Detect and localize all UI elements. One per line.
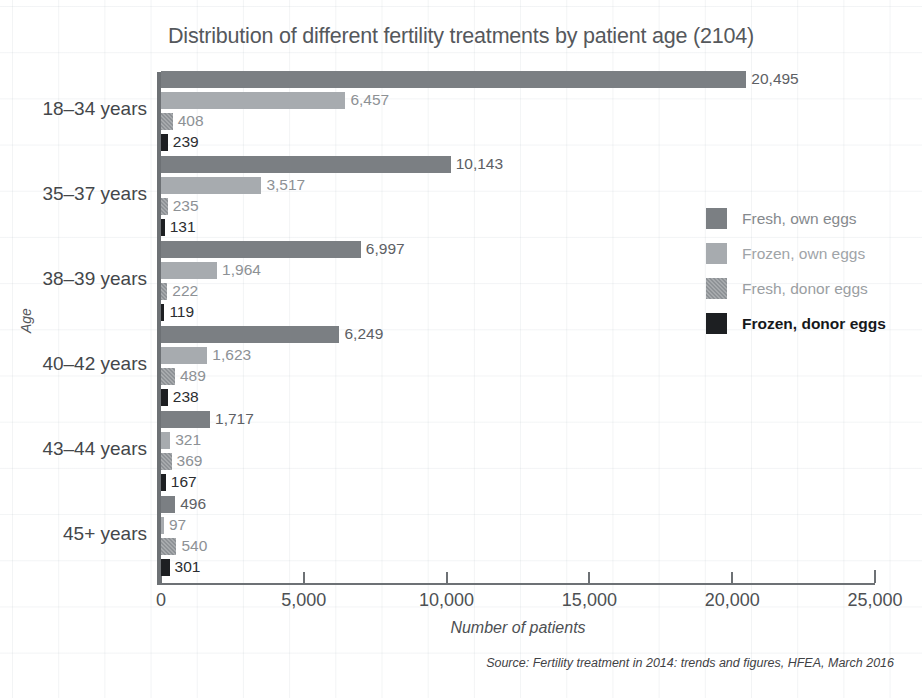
bar-value-label: 6,997 [361, 240, 405, 258]
bar[interactable] [161, 347, 207, 364]
bar[interactable] [161, 538, 176, 555]
bar-value-label: 20,495 [746, 70, 798, 88]
legend-label: Frozen, donor eggs [742, 315, 886, 333]
bar[interactable] [161, 432, 170, 449]
bar-value-label: 489 [175, 367, 206, 385]
legend-item[interactable]: Frozen, own eggs [706, 243, 886, 264]
bar-row: 97 [161, 517, 875, 534]
legend-label: Fresh, own eggs [742, 210, 857, 228]
legend-swatch-icon [706, 208, 727, 229]
source-prefix: Source: [486, 656, 529, 670]
legend-label: Frozen, own eggs [742, 245, 865, 263]
bar[interactable] [161, 134, 168, 151]
bar-row: 239 [161, 134, 875, 151]
legend-swatch-icon [706, 278, 727, 299]
bar-row: 238 [161, 389, 875, 406]
bar-row: 369 [161, 453, 875, 470]
y-axis-category-label: 18–34 years [0, 98, 147, 120]
legend-item[interactable]: Fresh, own eggs [706, 208, 886, 229]
legend-item[interactable]: Fresh, donor eggs [706, 278, 886, 299]
bar-value-label: 6,457 [345, 91, 389, 109]
y-axis-title: Age [18, 308, 34, 333]
bar-group: 20,4956,45740823918–34 years [161, 71, 875, 155]
source-text: Fertility treatment in 2014: trends and … [533, 656, 785, 670]
chart-legend: Fresh, own eggsFrozen, own eggsFresh, do… [706, 208, 886, 348]
bar-value-label: 301 [170, 558, 201, 576]
bar[interactable] [161, 496, 175, 513]
bar-value-label: 97 [164, 516, 186, 534]
bar-value-label: 131 [165, 218, 196, 236]
bar-group: 4969754030145+ years [161, 496, 875, 580]
bar-value-label: 321 [170, 431, 201, 449]
legend-swatch-icon [706, 313, 727, 334]
bar-value-label: 540 [176, 537, 207, 555]
bar-row: 10,143 [161, 156, 875, 173]
bar-value-label: 408 [173, 112, 204, 130]
bar-value-label: 1,964 [217, 261, 261, 279]
bar[interactable] [161, 198, 168, 215]
bar-value-label: 3,517 [261, 176, 305, 194]
bar-row: 20,495 [161, 71, 875, 88]
fertility-treatments-bar-chart: Distribution of different fertility trea… [0, 0, 922, 698]
y-axis-category-label: 35–37 years [0, 183, 147, 205]
bar-value-label: 496 [175, 495, 206, 513]
bar[interactable] [161, 92, 345, 109]
source-note: Source: Fertility treatment in 2014: tre… [486, 656, 894, 670]
bar-value-label: 10,143 [451, 155, 503, 173]
x-axis-tick-label: 20,000 [705, 590, 760, 611]
bar-value-label: 6,249 [339, 325, 383, 343]
bar-row: 1,717 [161, 411, 875, 428]
bar[interactable] [161, 389, 168, 406]
bar-value-label: 119 [164, 303, 194, 321]
bar[interactable] [161, 156, 451, 173]
bar[interactable] [161, 559, 170, 576]
bar[interactable] [161, 411, 210, 428]
x-axis-title: Number of patients [161, 619, 875, 637]
bar-row: 6,457 [161, 92, 875, 109]
bar[interactable] [161, 262, 217, 279]
y-axis-category-label: 43–44 years [0, 438, 147, 460]
bar-value-label: 1,717 [210, 410, 254, 428]
bar-value-label: 235 [168, 197, 199, 215]
y-axis-category-label: 40–42 years [0, 353, 147, 375]
bar[interactable] [161, 177, 261, 194]
chart-title: Distribution of different fertility trea… [0, 24, 922, 49]
bar-value-label: 238 [168, 388, 199, 406]
legend-item[interactable]: Frozen, donor eggs [706, 313, 886, 334]
y-axis-category-label: 38–39 years [0, 268, 147, 290]
bar-value-label: 369 [172, 452, 203, 470]
bar-row: 496 [161, 496, 875, 513]
bar-row: 1,623 [161, 347, 875, 364]
x-axis-spine [157, 583, 875, 585]
bar-value-label: 1,623 [207, 346, 251, 364]
bar-row: 540 [161, 538, 875, 555]
bar[interactable] [161, 453, 172, 470]
bar-group: 1,71732136916743–44 years [161, 411, 875, 495]
bar-row: 489 [161, 368, 875, 385]
bar-value-label: 167 [166, 473, 197, 491]
x-axis-tick-label: 5,000 [281, 590, 326, 611]
legend-label: Fresh, donor eggs [742, 280, 868, 298]
x-axis-tick-label: 10,000 [419, 590, 474, 611]
bar[interactable] [161, 368, 175, 385]
x-axis-tick-label: 25,000 [847, 590, 902, 611]
legend-swatch-icon [706, 243, 727, 264]
source-publisher: HFEA, March 2016 [788, 656, 894, 670]
y-axis-category-label: 45+ years [0, 523, 147, 545]
x-axis-tick-label: 15,000 [562, 590, 617, 611]
bar-row: 408 [161, 113, 875, 130]
bar[interactable] [161, 113, 173, 130]
bar-value-label: 239 [168, 133, 199, 151]
bar-value-label: 222 [167, 282, 198, 300]
bar-row: 321 [161, 432, 875, 449]
bar[interactable] [161, 71, 746, 88]
bar[interactable] [161, 241, 361, 258]
bar-row: 3,517 [161, 177, 875, 194]
bar-row: 167 [161, 474, 875, 491]
bar-row: 301 [161, 559, 875, 576]
x-axis-tick-label: 0 [156, 590, 166, 611]
bar[interactable] [161, 326, 339, 343]
